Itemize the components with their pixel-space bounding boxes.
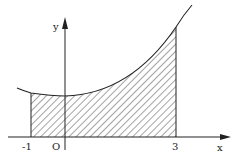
- tick-label-minus-one: -1: [22, 141, 32, 152]
- tick-label-three: 3: [172, 141, 178, 152]
- origin-label: O: [52, 141, 60, 152]
- x-axis-label: x: [217, 142, 223, 153]
- area-under-curve-diagram: y x O -1 3: [0, 0, 237, 161]
- y-axis-label: y: [52, 21, 59, 32]
- y-axis-arrow-icon: [62, 17, 68, 29]
- x-axis-arrow-icon: [220, 134, 231, 140]
